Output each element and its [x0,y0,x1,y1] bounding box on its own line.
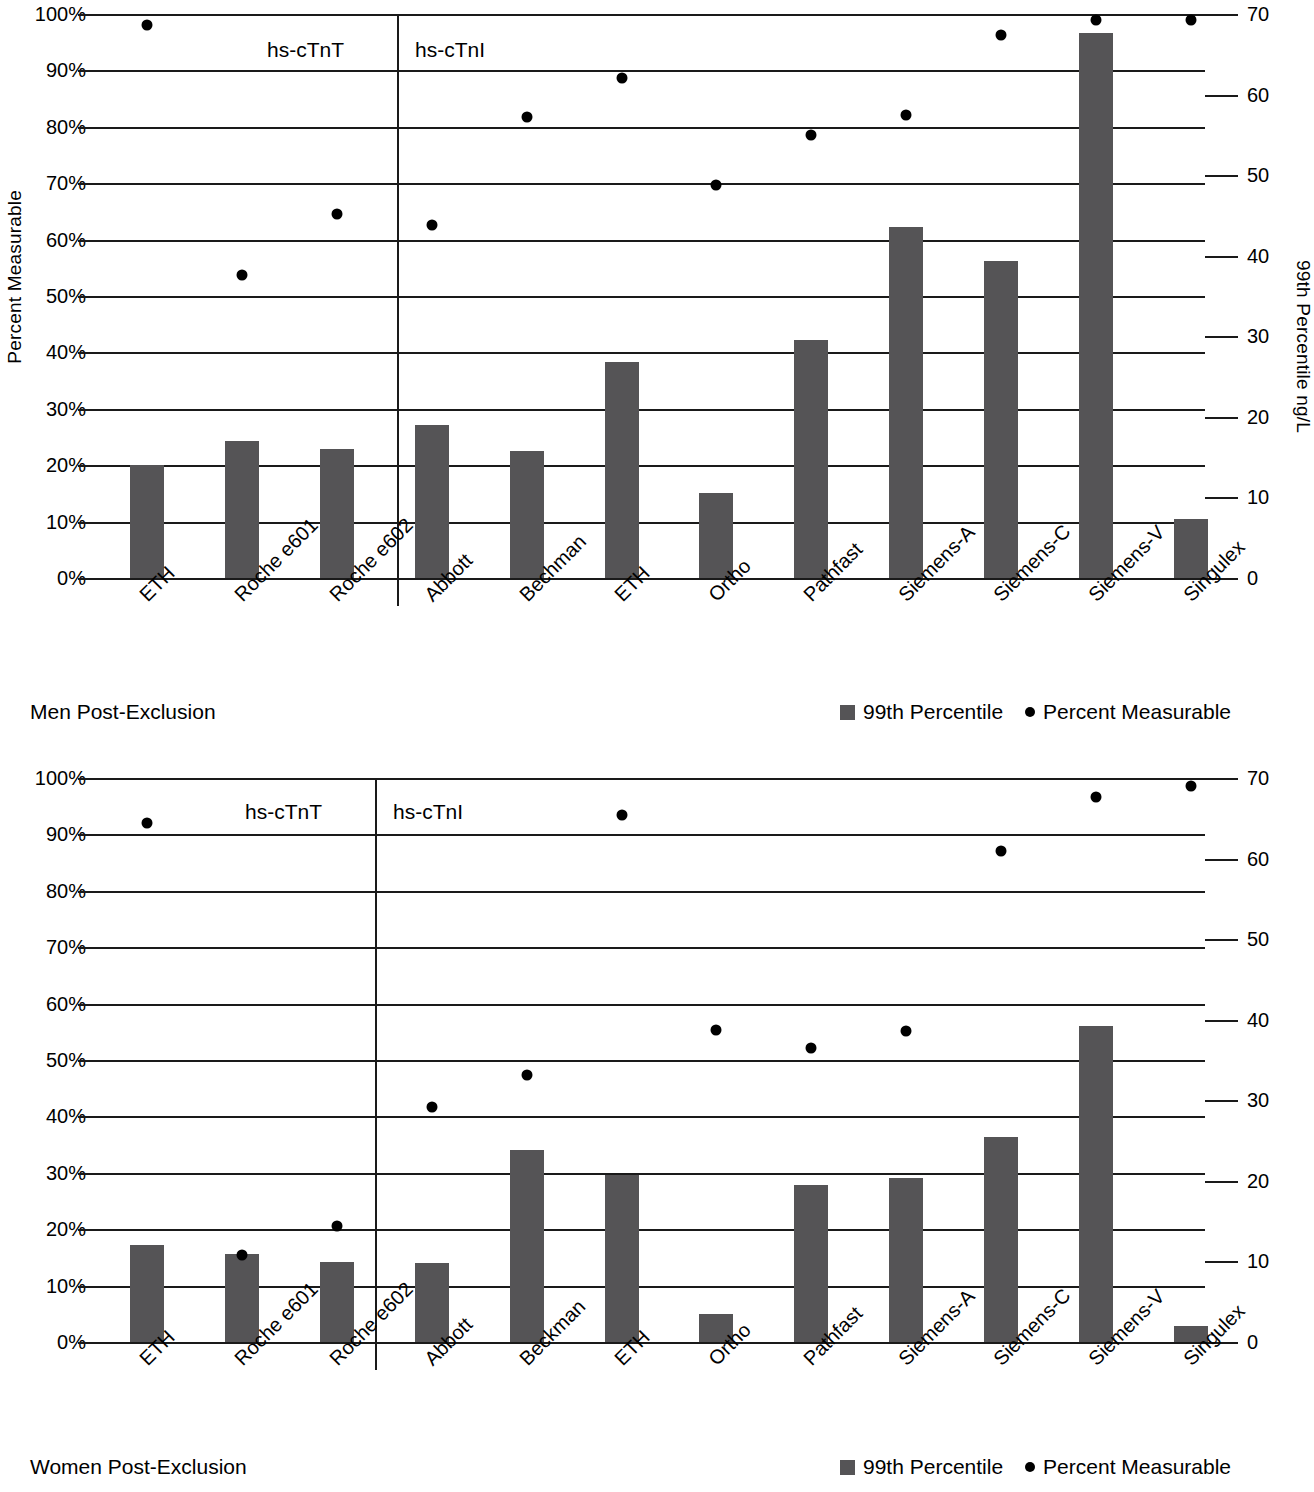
bar-pathfast-7 [794,1185,828,1342]
group-label-hs-ctnt: hs-cTnT [245,800,322,824]
square-swatch-icon [840,705,855,720]
y-tick-mark-50 [78,296,100,298]
y2-tick-label-0: 0 [1247,567,1258,590]
y2-tick-label-50: 50 [1247,928,1269,951]
y2-tick-mark-20 [1205,1181,1238,1183]
gridline-left-100 [100,778,1205,780]
data-point-roche-e601-1 [237,1249,248,1260]
gridline-left-80 [100,891,1205,893]
gridline-left-40 [100,352,1205,354]
y2-tick-mark-30 [1205,336,1238,338]
data-point-eth-0 [142,818,153,829]
data-point-pathfast-7 [806,129,817,140]
chart-caption-women: Women Post-Exclusion [30,1455,247,1479]
bar-siemens-c-9 [984,1137,1018,1342]
y-tick-mark-70 [78,947,100,949]
data-point-roche-e602-2 [332,208,343,219]
group-label-hs-ctni: hs-cTnI [393,800,463,824]
bar-abbott-3 [415,425,449,578]
bar-roche-e602-2 [320,449,354,578]
gridline-left-20 [100,1229,1205,1231]
bar-beckman-4 [510,1150,544,1342]
dot-swatch-icon [1025,1462,1035,1472]
y2-tick-label-20: 20 [1247,1169,1269,1192]
y2-tick-mark-70 [1205,14,1238,16]
group-separator [375,778,377,1370]
data-point-singulex-11 [1185,14,1196,25]
data-point-singulex-11 [1185,781,1196,792]
y-tick-mark-30 [78,1173,100,1175]
data-point-roche-e601-1 [237,269,248,280]
y2-tick-label-70: 70 [1247,3,1269,26]
y2-tick-label-60: 60 [1247,83,1269,106]
data-point-abbott-3 [426,219,437,230]
gridline-left-10 [100,1286,1205,1288]
y2-tick-mark-10 [1205,497,1238,499]
y2-tick-mark-70 [1205,778,1238,780]
data-point-siemens-a-8 [901,1025,912,1036]
data-point-abbott-3 [426,1102,437,1113]
bar-siemens-c-9 [984,261,1018,578]
gridline-left-60 [100,1004,1205,1006]
y2-tick-label-10: 10 [1247,486,1269,509]
dot-swatch-icon [1025,707,1035,717]
y2-tick-label-40: 40 [1247,244,1269,267]
y-tick-mark-40 [78,352,100,354]
bar-bechman-4 [510,451,544,578]
legend-label-dot: Percent Measurable [1043,700,1231,724]
bar-roche-e601-1 [225,441,259,578]
y-tick-mark-90 [78,834,100,836]
chart-women-post-exclusion: Percent Measurable 99th Percentile ng/L … [0,746,1314,1492]
bar-eth-5 [605,362,639,578]
y-tick-mark-60 [78,240,100,242]
bar-siemens-v-10 [1079,1026,1113,1342]
chart-caption-men: Men Post-Exclusion [30,700,216,724]
bar-pathfast-7 [794,340,828,578]
y-tick-mark-20 [78,465,100,467]
chart-men-post-exclusion: Percent Measurable 99th Percentile ng/L … [0,0,1314,746]
data-point-roche-e602-2 [332,1220,343,1231]
y2-tick-label-70: 70 [1247,767,1269,790]
data-point-eth-0 [142,20,153,31]
legend-item-99th-percentile: 99th Percentile [840,1455,1003,1479]
y-tick-mark-80 [78,127,100,129]
data-point-eth-5 [616,72,627,83]
y2-tick-label-30: 30 [1247,1089,1269,1112]
group-label-hs-ctnt: hs-cTnT [267,38,344,62]
gridline-left-40 [100,1116,1205,1118]
bar-eth-5 [605,1175,639,1342]
gridline-left-10 [100,522,1205,524]
y-axis-label-right-men: 99th Percentile ng/L [1290,260,1314,433]
gridline-left-70 [100,947,1205,949]
bar-siemens-a-8 [889,227,923,578]
data-point-ortho-6 [711,1025,722,1036]
group-label-hs-ctni: hs-cTnI [415,38,485,62]
data-point-bechman-4 [521,112,532,123]
gridline-left-50 [100,1060,1205,1062]
gridline-left-80 [100,127,1205,129]
y2-tick-label-0: 0 [1247,1331,1258,1354]
y2-tick-mark-20 [1205,417,1238,419]
y-axis-label-left-men: Percent Measurable [4,190,28,364]
y2-tick-label-40: 40 [1247,1008,1269,1031]
y-tick-mark-70 [78,183,100,185]
y-tick-mark-100 [78,14,100,16]
gridline-left-100 [100,14,1205,16]
y2-tick-mark-50 [1205,939,1238,941]
legend-men: 99th Percentile Percent Measurable [840,700,1231,724]
square-swatch-icon [840,1460,855,1475]
gridline-left-20 [100,465,1205,467]
y-tick-mark-100 [78,778,100,780]
y-tick-mark-30 [78,409,100,411]
data-point-siemens-c-9 [995,846,1006,857]
y-tick-mark-90 [78,70,100,72]
y2-tick-mark-10 [1205,1261,1238,1263]
y-tick-mark-10 [78,522,100,524]
gridline-left-90 [100,834,1205,836]
legend-item-percent-measurable: Percent Measurable [1025,1455,1231,1479]
gridline-left-30 [100,409,1205,411]
data-point-beckman-4 [521,1070,532,1081]
data-point-eth-5 [616,810,627,821]
bar-eth-0 [130,1245,164,1342]
y-tick-mark-80 [78,891,100,893]
